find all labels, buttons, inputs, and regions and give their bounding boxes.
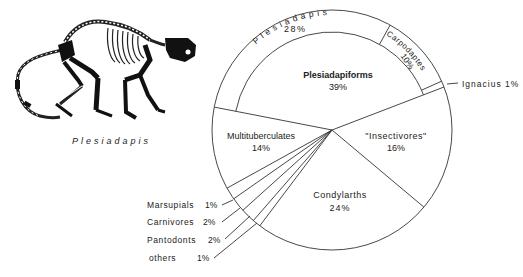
- label-ignacius: Ignacius 1%: [462, 79, 519, 89]
- label-multituberculates: Multituberculates: [227, 131, 296, 141]
- label-carnivores: Carnivores: [147, 217, 194, 227]
- label-carnivores-pct: 2%: [203, 217, 216, 227]
- pie-chart: Plesiadapis 28% Carpodaptes 10% Ignacius…: [0, 0, 523, 277]
- label-multituberculates-pct: 14%: [252, 143, 270, 153]
- label-pantodonts: Pantodonts: [147, 235, 196, 245]
- label-condylarths-pct: 24%: [329, 203, 350, 213]
- label-plesiadapis-pct: 28%: [284, 24, 307, 34]
- boundary-multituberculates-plesiadapiforms: [214, 107, 332, 130]
- label-marsupials: Marsupials: [147, 200, 194, 210]
- label-pantodonts-pct: 2%: [208, 235, 221, 245]
- label-others-pct: 1%: [197, 253, 210, 263]
- label-insectivores-pct: 16%: [387, 143, 405, 153]
- leader-ignacius: [447, 83, 458, 84]
- label-plesiadapiforms-pct: 39%: [329, 82, 347, 92]
- label-plesiadapiforms: Plesiadapiforms: [303, 70, 373, 80]
- label-marsupials-pct: 1%: [205, 200, 218, 210]
- label-condylarths: Condylarths: [313, 190, 367, 200]
- label-others: others: [149, 253, 176, 263]
- leader-marsupials: [222, 200, 233, 205]
- boundary-plesiadapiforms-insectivores: [332, 87, 444, 130]
- label-insectivores: "Insectivores": [365, 131, 426, 141]
- boundary-condylarths-others: [260, 130, 332, 226]
